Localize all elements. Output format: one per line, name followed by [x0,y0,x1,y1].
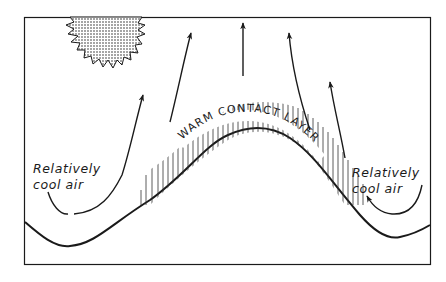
arrow-left-rising-main [74,95,143,214]
sun-icon [66,17,145,68]
arrow-left-rising [48,192,68,214]
arrow-far-right [330,82,345,158]
diagram-canvas: WARM CONTACT LAYER Relatively cool air R… [0,0,446,282]
arrow-upward-left [170,33,191,122]
left-cool-air-label: Relatively cool air [33,161,105,192]
right-cool-air-label: Relatively cool air [352,165,424,196]
